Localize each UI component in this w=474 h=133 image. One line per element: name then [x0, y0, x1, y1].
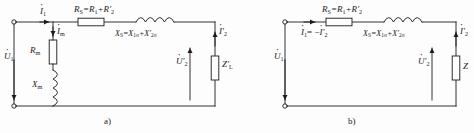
terminal-b-bottom [283, 104, 287, 108]
label-a-series-reactance: XS=X1σ+X′2σ [115, 30, 157, 39]
label-b-load-impedance: Z [463, 62, 468, 71]
resistor-a-magnetizing [49, 40, 57, 64]
caption-b: b) [348, 116, 356, 126]
label-b-current-i2: I′2 [460, 27, 468, 37]
caption-a: a) [104, 116, 111, 126]
label-a-voltage-u1: U1 [4, 52, 14, 62]
label-b-voltage-u2: U′2 [418, 57, 430, 67]
label-a-current-i1: I1 [40, 7, 46, 17]
resistor-b-series [326, 18, 352, 26]
impedance-b-load [452, 56, 460, 80]
label-b-series-reactance: XS=X1σ+X′2σ [363, 30, 405, 39]
label-b-series-resistance: RS=R1+R′2 [322, 5, 362, 15]
resistor-a-series [78, 18, 104, 26]
impedance-a-load [211, 56, 219, 80]
label-a-voltage-u2: U′2 [176, 57, 188, 67]
terminal-b-top [283, 20, 287, 24]
figure-root: I1 U1 Im Rm Xm RS=R1+R′2 XS=X1σ+X′2σ I′2… [0, 0, 474, 133]
terminal-a-bottom [12, 104, 16, 108]
label-a-series-resistance: RS=R1+R′2 [74, 5, 114, 15]
label-a-resistance-rm: Rm [30, 46, 40, 56]
terminal-a-top [12, 20, 16, 24]
label-a-current-i2: I′2 [219, 27, 227, 37]
label-a-reactance-xm: Xm [32, 80, 42, 90]
label-a-load-impedance: Z′L [222, 60, 233, 70]
label-b-current-relation: I1= −I′2 [301, 28, 328, 38]
inductor-b-series [384, 18, 422, 23]
label-a-current-im: Im [57, 27, 65, 37]
inductor-a-magnetizing [53, 70, 58, 106]
label-b-voltage-u1: U1 [274, 52, 284, 62]
circuit-schematic-canvas [0, 0, 474, 133]
inductor-a-series [136, 18, 174, 23]
